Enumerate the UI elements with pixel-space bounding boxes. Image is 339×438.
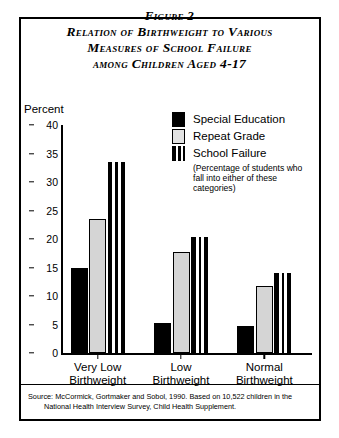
- y-tick-label: 35: [34, 148, 58, 160]
- source-line-1: Source: McCormick, Gortmaker and Sobol, …: [28, 392, 292, 401]
- bar-normal-birthweight-special-education: [237, 326, 254, 353]
- bar-normal-birthweight-school-failure: [274, 273, 291, 353]
- y-tick-mark: [29, 124, 34, 125]
- bar-very-low-birthweight-school-failure: [108, 162, 125, 353]
- y-tick-label: 15: [34, 262, 58, 274]
- title-line-1: Figure 2: [0, 8, 339, 24]
- bar-stripe: [112, 162, 115, 353]
- bar-normal-birthweight-repeat-grade: [256, 286, 273, 353]
- y-tick-mark: [29, 295, 34, 296]
- bar-stripe: [279, 273, 282, 353]
- x-tick-mark: [97, 353, 98, 359]
- bar-low-birthweight-school-failure: [191, 237, 208, 353]
- y-tick-mark: [29, 352, 34, 353]
- y-tick-label: 10: [34, 290, 58, 302]
- source-line-2: National Health Interview Survey, Child …: [44, 402, 313, 412]
- title-line-3: Measures of School Failure: [0, 40, 339, 56]
- x-category-label-line: Low: [153, 361, 210, 374]
- title-line-2: Relation of Birthweight to Various: [0, 24, 339, 40]
- y-tick-label: 25: [34, 205, 58, 217]
- chart-plot-area: 0510152025303540Very LowBirthweightLowBi…: [62, 125, 312, 353]
- x-tick-mark: [264, 353, 265, 359]
- bar-stripe: [284, 273, 287, 353]
- legend-label-special-education: Special Education: [193, 112, 285, 126]
- bar-stripe: [118, 162, 121, 353]
- bar-stripe: [196, 237, 199, 353]
- bar-very-low-birthweight-repeat-grade: [89, 219, 106, 353]
- y-tick-mark: [29, 181, 34, 182]
- x-tick-mark: [180, 353, 181, 359]
- source-note: Source: McCormick, Gortmaker and Sobol, …: [28, 392, 313, 411]
- y-tick-mark: [29, 238, 34, 239]
- bar-low-birthweight-repeat-grade: [173, 252, 190, 353]
- y-tick-mark: [29, 267, 34, 268]
- y-axis-label: Percent: [24, 103, 64, 115]
- y-tick-label: 30: [34, 176, 58, 188]
- bar-low-birthweight-special-education: [154, 323, 171, 353]
- x-axis-line: [61, 353, 312, 355]
- title-line-4: among Children Aged 4-17: [0, 56, 339, 72]
- bar-very-low-birthweight-special-education: [71, 268, 88, 354]
- y-tick-label: 5: [34, 319, 58, 331]
- y-tick-mark: [29, 153, 34, 154]
- x-category-label-line: Very Low: [69, 361, 126, 374]
- x-category-label-line: Normal: [236, 361, 293, 374]
- y-tick-mark: [29, 210, 34, 211]
- figure-title: Figure 2 Relation of Birthweight to Vari…: [0, 8, 339, 72]
- figure-page: Figure 2 Relation of Birthweight to Vari…: [0, 0, 339, 438]
- y-tick-mark: [29, 324, 34, 325]
- source-separator: [21, 384, 319, 385]
- y-tick-label: 40: [34, 119, 58, 131]
- y-tick-label: 20: [34, 233, 58, 245]
- bar-stripe: [201, 237, 204, 353]
- y-tick-label: 0: [34, 347, 58, 359]
